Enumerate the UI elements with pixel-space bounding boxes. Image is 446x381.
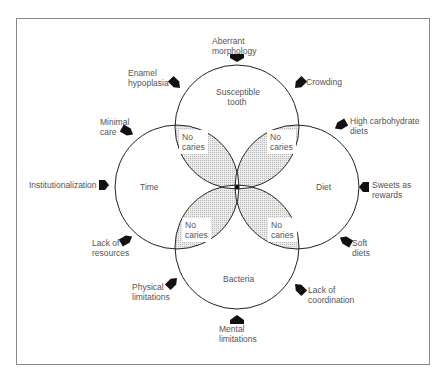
factor-line2: limitations: [132, 292, 170, 302]
factor-line2: diets: [352, 248, 370, 258]
label-bacteria: Bacteria: [223, 274, 254, 284]
factor-crowding: Crowding: [306, 77, 342, 87]
factor-line2: limitations: [219, 334, 257, 344]
factor-line1: Physical: [132, 282, 170, 292]
no-caries-line2: caries: [182, 142, 205, 152]
factor-line1: Soft: [352, 238, 370, 248]
label-time: Time: [140, 182, 159, 192]
no-caries-line2: caries: [185, 230, 208, 240]
label-susceptible-tooth-text: Susceptible tooth: [216, 87, 258, 107]
factor-line2: morphology: [212, 46, 256, 56]
factor-minimal-care: Minimal care: [100, 117, 129, 137]
factor-sweets-as-rewards: Sweets as rewards: [372, 180, 411, 200]
factor-line2: care: [100, 127, 129, 137]
no-caries-top-right: No caries: [267, 130, 296, 154]
no-caries-bottom-left: No caries: [182, 218, 211, 242]
arrow-icon-institutionalization: [99, 180, 109, 190]
factor-mental-limitations: Mental limitations: [219, 324, 257, 344]
arrow-icon-mental-limitations: [230, 315, 244, 324]
factor-lack-of-coordination: Lack of coordination: [308, 285, 354, 305]
no-caries-line1: No: [182, 132, 205, 142]
factor-line1: Sweets as: [372, 180, 411, 190]
arrow-icon-enamel-hypoplasia: [168, 76, 183, 91]
factor-institutionalization: Institutionalization: [29, 180, 97, 190]
label-susceptible-tooth: Susceptible tooth: [216, 87, 258, 107]
arrow-icon-soft-diets: [338, 234, 353, 247]
no-caries-line1: No: [185, 220, 208, 230]
factor-line2: coordination: [308, 295, 354, 305]
factor-line2: hypoplasia: [128, 78, 169, 88]
factor-line1: Enamel: [128, 68, 169, 78]
no-caries-bottom-right: No caries: [268, 218, 297, 242]
factor-line2: resources: [92, 248, 129, 258]
factor-lack-of-resources: Lack of resources: [92, 238, 129, 258]
factor-line1: Lack of: [92, 238, 129, 248]
factor-line1: Aberrant: [212, 36, 256, 46]
arrow-icon-lack-of-coordination: [292, 281, 307, 296]
factor-line1: Institutionalization: [29, 180, 97, 190]
factor-line1: Minimal: [100, 117, 129, 127]
factor-soft-diets: Soft diets: [352, 238, 370, 258]
no-caries-line2: caries: [270, 142, 293, 152]
factor-high-carbohydrate-diets: High carbohydrate diets: [350, 116, 419, 136]
arrow-icon-high-carbohydrate: [333, 119, 348, 132]
factor-physical-limitations: Physical limitations: [132, 282, 170, 302]
factor-line1: Lack of: [308, 285, 354, 295]
factor-enamel-hypoplasia: Enamel hypoplasia: [128, 68, 169, 88]
factor-line1: Crowding: [306, 77, 342, 87]
factor-line2: rewards: [372, 190, 411, 200]
no-caries-line1: No: [270, 132, 293, 142]
factor-line1: High carbohydrate: [350, 116, 419, 126]
no-caries-line2: caries: [271, 230, 294, 240]
factor-line1: Mental: [219, 324, 257, 334]
no-caries-top-left: No caries: [179, 130, 208, 154]
factor-line2: diets: [350, 126, 419, 136]
factor-aberrant-morphology: Aberrant morphology: [212, 36, 256, 56]
no-caries-line1: No: [271, 220, 294, 230]
arrow-icon-crowding: [292, 76, 307, 91]
arrow-icon-sweets-as-rewards: [359, 182, 369, 192]
label-diet: Diet: [316, 182, 331, 192]
